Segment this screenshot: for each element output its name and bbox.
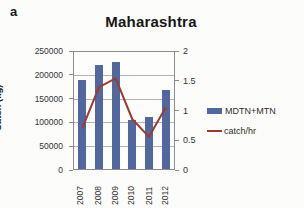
legend-label-catch-hr: catch/hr — [224, 126, 256, 136]
legend-item-mdtn-mtn: MDTN+MTN — [207, 104, 299, 117]
x-tick-2011: 2011 — [145, 173, 154, 205]
x-tick-2009: 2009 — [111, 173, 120, 205]
y-tick-left-250000: 250000 — [35, 47, 63, 56]
y-axis-left: 250000200000150000100000500000 — [0, 51, 73, 170]
y-tickmark-right — [175, 51, 179, 52]
x-tick-2012: 2012 — [161, 173, 170, 205]
legend-label-mdtn-mtn: MDTN+MTN — [225, 106, 276, 116]
y-axis-right: 21.510.50 — [175, 51, 205, 170]
y-tickmark-right — [175, 170, 179, 171]
bar-series-swatch — [207, 108, 222, 114]
y-tick-right-0: 0 — [183, 166, 188, 175]
y-tick-left-0: 0 — [58, 166, 63, 175]
x-axis: 200720082009201020112012 — [73, 172, 175, 206]
y-tick-right-1.5: 1.5 — [183, 76, 196, 85]
x-tick-2007: 2007 — [76, 173, 85, 205]
legend-item-catch-hr: catch/hr — [207, 124, 299, 137]
y-tick-left-50000: 50000 — [39, 142, 63, 151]
y-tickmark-right — [175, 80, 179, 81]
y-tickmark-right — [175, 140, 179, 141]
catch-per-hr-line — [74, 52, 174, 169]
y-tickmark-right — [175, 110, 179, 111]
figure-panel: a Maharashtra Catch (kg) 250000200000150… — [0, 0, 304, 208]
x-tick-2008: 2008 — [94, 173, 103, 205]
y-tick-left-200000: 200000 — [35, 71, 63, 80]
y-tick-right-1: 1 — [183, 106, 188, 115]
line-series-swatch — [207, 130, 222, 132]
y-tick-left-150000: 150000 — [35, 94, 63, 103]
y-tick-right-0.5: 0.5 — [183, 136, 196, 145]
plot-area — [73, 51, 175, 170]
panel-label: a — [10, 4, 17, 19]
y-tick-right-2: 2 — [183, 47, 188, 56]
legend: MDTN+MTN catch/hr — [207, 104, 299, 144]
chart-title: Maharashtra — [70, 13, 232, 30]
x-tick-2010: 2010 — [127, 173, 136, 205]
y-tick-left-100000: 100000 — [35, 118, 63, 127]
